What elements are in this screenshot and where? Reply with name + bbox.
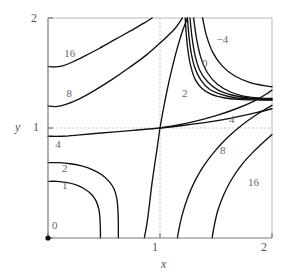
x-tick-label-1: 1	[152, 241, 158, 253]
contour-label-0: 16	[64, 48, 75, 59]
y-axis-label: y	[15, 121, 20, 133]
contour-label-6: −4	[217, 34, 229, 45]
contour-label-1: 8	[67, 88, 73, 99]
contour-plot-figure: 1221xy1684210−4024816	[0, 0, 290, 278]
contour-label-10: 8	[220, 145, 226, 156]
origin-point-marker	[45, 235, 50, 240]
y-tick-label-1: 1	[33, 121, 39, 133]
contour-plot-canvas	[0, 0, 290, 278]
contour-label-3: 2	[62, 163, 68, 174]
contour-label-2: 4	[55, 139, 61, 150]
contour-label-11: 16	[248, 177, 259, 188]
contour-label-5: 0	[52, 220, 58, 231]
contour-label-7: 0	[202, 58, 208, 69]
contour-label-4: 1	[62, 180, 68, 191]
x-tick-label-2: 2	[261, 241, 267, 253]
y-tick-label-2: 2	[31, 12, 37, 24]
contour-label-9: 4	[229, 114, 235, 125]
contour-label-8: 2	[182, 88, 188, 99]
x-axis-label: x	[161, 258, 166, 270]
